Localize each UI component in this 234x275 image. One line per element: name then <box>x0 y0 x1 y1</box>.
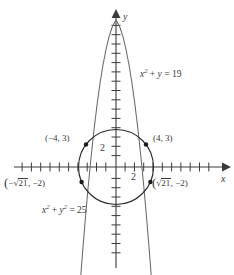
y-axis-arrow <box>112 9 121 18</box>
circle-eq-rhs: = 25 <box>67 205 87 215</box>
intersection-dot-top-right <box>144 142 148 146</box>
point-label-bottom-left: (−√21, −2) <box>4 176 45 189</box>
circle-equation-label: x2 + y2 = 25 <box>42 204 87 216</box>
y-axis-label: y <box>123 12 127 22</box>
graph-figure: y x 2 2 x2 + y = 19 x2 + y2 = 25 (−4, 3)… <box>0 0 234 275</box>
y-axis-tick-label-2: 2 <box>100 143 105 153</box>
bottom-left-radicand: 21 <box>18 178 28 188</box>
point-label-bottom-right: (√21, −2) <box>152 176 188 189</box>
bottom-left-sqrt: √21 <box>13 177 27 188</box>
bottom-right-radicand: 21 <box>161 178 171 188</box>
parabola-eq-plus: + <box>147 69 157 79</box>
parabola-equation-label: x2 + y = 19 <box>140 68 181 80</box>
coordinate-plot <box>0 0 234 275</box>
parabola-eq-rhs: = 19 <box>162 69 182 79</box>
circle-eq-plus: + <box>49 205 59 215</box>
intersection-dot-top-left <box>84 142 88 146</box>
x-axis-arrow <box>222 163 231 172</box>
point-label-top-right: (4, 3) <box>153 134 173 143</box>
bottom-right-suffix: , −2) <box>171 178 188 188</box>
point-label-top-left: (−4, 3) <box>45 134 70 143</box>
bottom-right-sqrt: √21 <box>156 177 170 188</box>
x-axis-label: x <box>221 174 225 184</box>
intersection-dot-bottom-left <box>79 180 83 184</box>
bottom-left-suffix: , −2) <box>28 178 45 188</box>
x-axis-tick-label-2: 2 <box>131 172 136 182</box>
